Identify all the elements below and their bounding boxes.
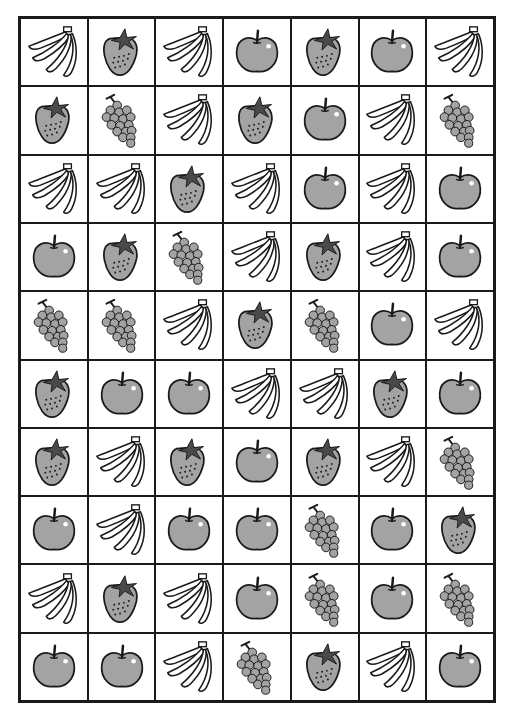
grid-cell: [292, 497, 358, 563]
banana-icon: [363, 638, 421, 696]
apple-icon: [228, 23, 286, 81]
strawberry-icon: [93, 228, 151, 286]
grid-cell: [89, 361, 155, 427]
grapes-icon: [431, 91, 489, 149]
grid-cell: [292, 224, 358, 290]
apple-icon: [363, 570, 421, 628]
strawberry-icon: [25, 433, 83, 491]
grid-cell: [156, 565, 222, 631]
grapes-icon: [431, 433, 489, 491]
apple-icon: [25, 228, 83, 286]
apple-icon: [296, 91, 354, 149]
strawberry-icon: [93, 23, 151, 81]
grapes-icon: [296, 296, 354, 354]
grid-cell: [224, 292, 290, 358]
banana-icon: [228, 365, 286, 423]
grid-cell: [360, 87, 426, 153]
strawberry-icon: [228, 91, 286, 149]
apple-icon: [25, 501, 83, 559]
grid-cell: [156, 634, 222, 700]
banana-icon: [363, 91, 421, 149]
grid-cell: [427, 429, 493, 495]
grid-cell: [427, 224, 493, 290]
banana-icon: [25, 570, 83, 628]
grid-cell: [292, 565, 358, 631]
grid-cell: [360, 292, 426, 358]
apple-icon: [431, 638, 489, 696]
banana-icon: [431, 23, 489, 81]
grid-cell: [21, 429, 87, 495]
banana-icon: [93, 160, 151, 218]
strawberry-icon: [25, 91, 83, 149]
grid-cell: [89, 19, 155, 85]
strawberry-icon: [160, 433, 218, 491]
banana-icon: [431, 296, 489, 354]
banana-icon: [363, 228, 421, 286]
grid-cell: [21, 156, 87, 222]
grid-cell: [292, 634, 358, 700]
apple-icon: [228, 501, 286, 559]
grid-cell: [156, 224, 222, 290]
grid-cell: [21, 224, 87, 290]
banana-icon: [160, 91, 218, 149]
apple-icon: [228, 570, 286, 628]
banana-icon: [363, 433, 421, 491]
grapes-icon: [25, 296, 83, 354]
apple-icon: [228, 433, 286, 491]
apple-icon: [160, 365, 218, 423]
banana-icon: [296, 365, 354, 423]
grid-cell: [427, 565, 493, 631]
strawberry-icon: [25, 365, 83, 423]
grid-cell: [224, 361, 290, 427]
grid-cell: [292, 87, 358, 153]
grid-cell: [292, 292, 358, 358]
grid-cell: [89, 497, 155, 563]
grapes-icon: [228, 638, 286, 696]
strawberry-icon: [160, 160, 218, 218]
banana-icon: [160, 296, 218, 354]
apple-icon: [431, 228, 489, 286]
grid-cell: [360, 429, 426, 495]
grid-cell: [89, 429, 155, 495]
grid-cell: [156, 19, 222, 85]
grapes-icon: [93, 296, 151, 354]
grid-cell: [224, 565, 290, 631]
grid-cell: [292, 429, 358, 495]
grid-cell: [156, 87, 222, 153]
grapes-icon: [296, 570, 354, 628]
strawberry-icon: [363, 365, 421, 423]
apple-icon: [296, 160, 354, 218]
apple-icon: [363, 501, 421, 559]
grid-cell: [156, 429, 222, 495]
grid-cell: [21, 19, 87, 85]
apple-icon: [25, 638, 83, 696]
grapes-icon: [431, 570, 489, 628]
grid-cell: [360, 19, 426, 85]
grid-cell: [360, 361, 426, 427]
grid-cell: [21, 634, 87, 700]
banana-icon: [228, 160, 286, 218]
strawberry-icon: [93, 570, 151, 628]
apple-icon: [93, 638, 151, 696]
strawberry-icon: [228, 296, 286, 354]
grid-cell: [360, 565, 426, 631]
grapes-icon: [296, 501, 354, 559]
banana-icon: [93, 501, 151, 559]
grid-cell: [21, 292, 87, 358]
grid-cell: [224, 634, 290, 700]
grid-cell: [21, 361, 87, 427]
grid-cell: [427, 87, 493, 153]
grid-cell: [292, 156, 358, 222]
grid-cell: [89, 224, 155, 290]
grid-cell: [292, 19, 358, 85]
apple-icon: [431, 365, 489, 423]
banana-icon: [93, 433, 151, 491]
strawberry-icon: [296, 433, 354, 491]
grid-cell: [156, 292, 222, 358]
grid-cell: [427, 156, 493, 222]
grid-cell: [156, 361, 222, 427]
grid-cell: [427, 361, 493, 427]
grid-cell: [21, 565, 87, 631]
grid-cell: [21, 87, 87, 153]
grid-cell: [292, 361, 358, 427]
